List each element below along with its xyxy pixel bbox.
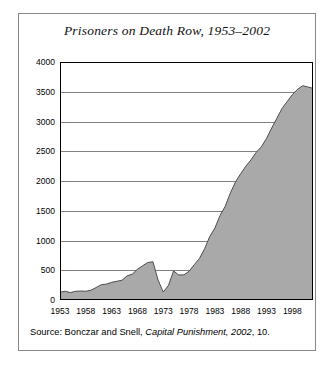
source-title: Capital Punishment, 2002 xyxy=(145,327,251,337)
x-axis-tick-label: 1983 xyxy=(205,306,224,316)
y-axis-tick-label: 3500 xyxy=(36,87,55,97)
x-axis-tick-label: 1963 xyxy=(102,306,121,316)
page-title: Prisoners on Death Row, 1953–2002 xyxy=(19,23,315,39)
y-axis-tick-label: 1000 xyxy=(36,236,55,246)
x-axis-tick-label: 1978 xyxy=(180,306,199,316)
source-suffix: , 10. xyxy=(252,327,270,337)
x-axis-tick-label: 1988 xyxy=(231,306,250,316)
y-axis-tick-label: 2000 xyxy=(36,176,55,186)
x-axis-tick-label: 1968 xyxy=(128,306,147,316)
figure-panel: Prisoners on Death Row, 1953–2002 050010… xyxy=(18,13,316,351)
x-axis-tick-label: 1973 xyxy=(154,306,173,316)
x-axis-tick-label: 1998 xyxy=(283,306,302,316)
y-axis-tick-label: 2500 xyxy=(36,146,55,156)
y-axis-tick-label: 4000 xyxy=(36,57,55,67)
chart-area: 05001000150020002500300035004000 1953195… xyxy=(60,62,313,300)
y-axis-tick-label: 0 xyxy=(50,295,55,305)
x-axis-tick-label: 1958 xyxy=(76,306,95,316)
y-axis-tick-label: 3000 xyxy=(36,117,55,127)
x-axis-tick-label: 1953 xyxy=(51,306,70,316)
source-note: Source: Bonczar and Snell, Capital Punis… xyxy=(30,327,305,339)
source-prefix: Source: Bonczar and Snell, xyxy=(30,327,145,337)
y-axis-tick-label: 1500 xyxy=(36,206,55,216)
death-row-area-chart xyxy=(60,62,313,300)
x-axis-tick-label: 1993 xyxy=(257,306,276,316)
area-series-fill xyxy=(60,86,313,300)
y-axis-tick-label: 500 xyxy=(41,265,55,275)
